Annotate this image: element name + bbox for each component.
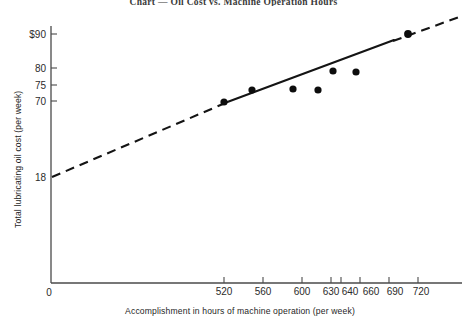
data-point bbox=[404, 30, 412, 38]
trendline-dashed-left bbox=[52, 104, 223, 177]
scatter-chart: Chart — Oil Cost vs. Machine Operation H… bbox=[0, 0, 467, 323]
data-point bbox=[314, 86, 321, 93]
y-axis-title: Total lubricating oil cost (per week) bbox=[13, 91, 23, 228]
x-tick-label-720: 720 bbox=[413, 286, 430, 297]
x-tick-label-690: 690 bbox=[387, 286, 404, 297]
trendline-dashed-right bbox=[393, 16, 462, 41]
data-point bbox=[289, 85, 296, 92]
x-axis-title: Accomplishment in hours of machine opera… bbox=[125, 306, 355, 316]
origin-label: 0 bbox=[46, 287, 52, 298]
y-tick-label-90: $90 bbox=[29, 29, 46, 40]
data-point bbox=[352, 68, 359, 75]
y-tick-label-80: 80 bbox=[35, 63, 47, 74]
x-tick-label-660: 660 bbox=[363, 286, 380, 297]
data-point bbox=[220, 98, 227, 105]
data-point bbox=[248, 86, 255, 93]
data-point bbox=[329, 67, 336, 74]
plot-area: $90 80 75 70 18 520 560 600 630 640 660 … bbox=[0, 0, 467, 323]
y-tick-label-18: 18 bbox=[35, 172, 47, 183]
x-tick-label-600: 600 bbox=[294, 286, 311, 297]
y-tick-label-70: 70 bbox=[35, 96, 47, 107]
trendline-solid bbox=[222, 40, 394, 104]
y-tick-label-75: 75 bbox=[35, 80, 47, 91]
x-tick-label-630: 630 bbox=[323, 286, 340, 297]
x-tick-label-640: 640 bbox=[342, 286, 359, 297]
x-tick-label-520: 520 bbox=[216, 286, 233, 297]
x-tick-label-560: 560 bbox=[255, 286, 272, 297]
